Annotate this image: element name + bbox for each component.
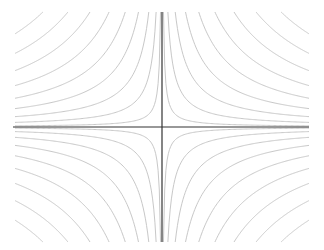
contour-line xyxy=(15,12,109,86)
contour-line xyxy=(199,156,309,242)
contour-line xyxy=(15,137,149,242)
contour-line xyxy=(15,12,43,34)
contour-line xyxy=(234,183,309,242)
contour-line xyxy=(256,201,309,242)
contour-line xyxy=(215,12,309,86)
contour-line xyxy=(15,12,161,126)
contour-line xyxy=(163,128,309,242)
contour-line xyxy=(15,201,68,242)
contour-line xyxy=(15,220,43,242)
contour-line xyxy=(175,12,309,117)
contour-line xyxy=(175,137,309,242)
contour-line xyxy=(256,12,309,53)
contour-line xyxy=(215,168,309,242)
contour-line xyxy=(15,128,161,242)
contour-line xyxy=(15,12,149,117)
contour-line xyxy=(15,12,125,98)
contour-line xyxy=(15,12,90,71)
contour-plot xyxy=(0,0,324,250)
contour-line xyxy=(15,168,109,242)
contour-line xyxy=(163,12,309,126)
contour-line xyxy=(15,12,68,53)
contour-line xyxy=(15,183,90,242)
contour-line xyxy=(199,12,309,98)
contour-line xyxy=(15,156,125,242)
contour-line xyxy=(281,220,309,242)
contour-line xyxy=(234,12,309,71)
contour-line xyxy=(281,12,309,34)
